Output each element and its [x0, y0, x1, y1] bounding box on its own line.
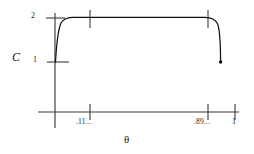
y-tick-label-2: 2 — [31, 12, 35, 20]
y-axis-label: C — [12, 51, 20, 63]
x-tick-label-1: 1 — [232, 118, 236, 126]
curve-C-of-theta — [56, 17, 221, 62]
x-axis-label: θ — [124, 134, 129, 145]
plot-canvas — [0, 0, 254, 154]
figure-container: 2 1 C .11... .89... 1 θ — [0, 0, 254, 154]
y-tick-label-1: 1 — [33, 56, 37, 64]
x-tick-label-089: .89... — [194, 118, 210, 126]
x-tick-label-011: .11... — [76, 118, 92, 126]
endpoint-dot — [219, 60, 222, 63]
